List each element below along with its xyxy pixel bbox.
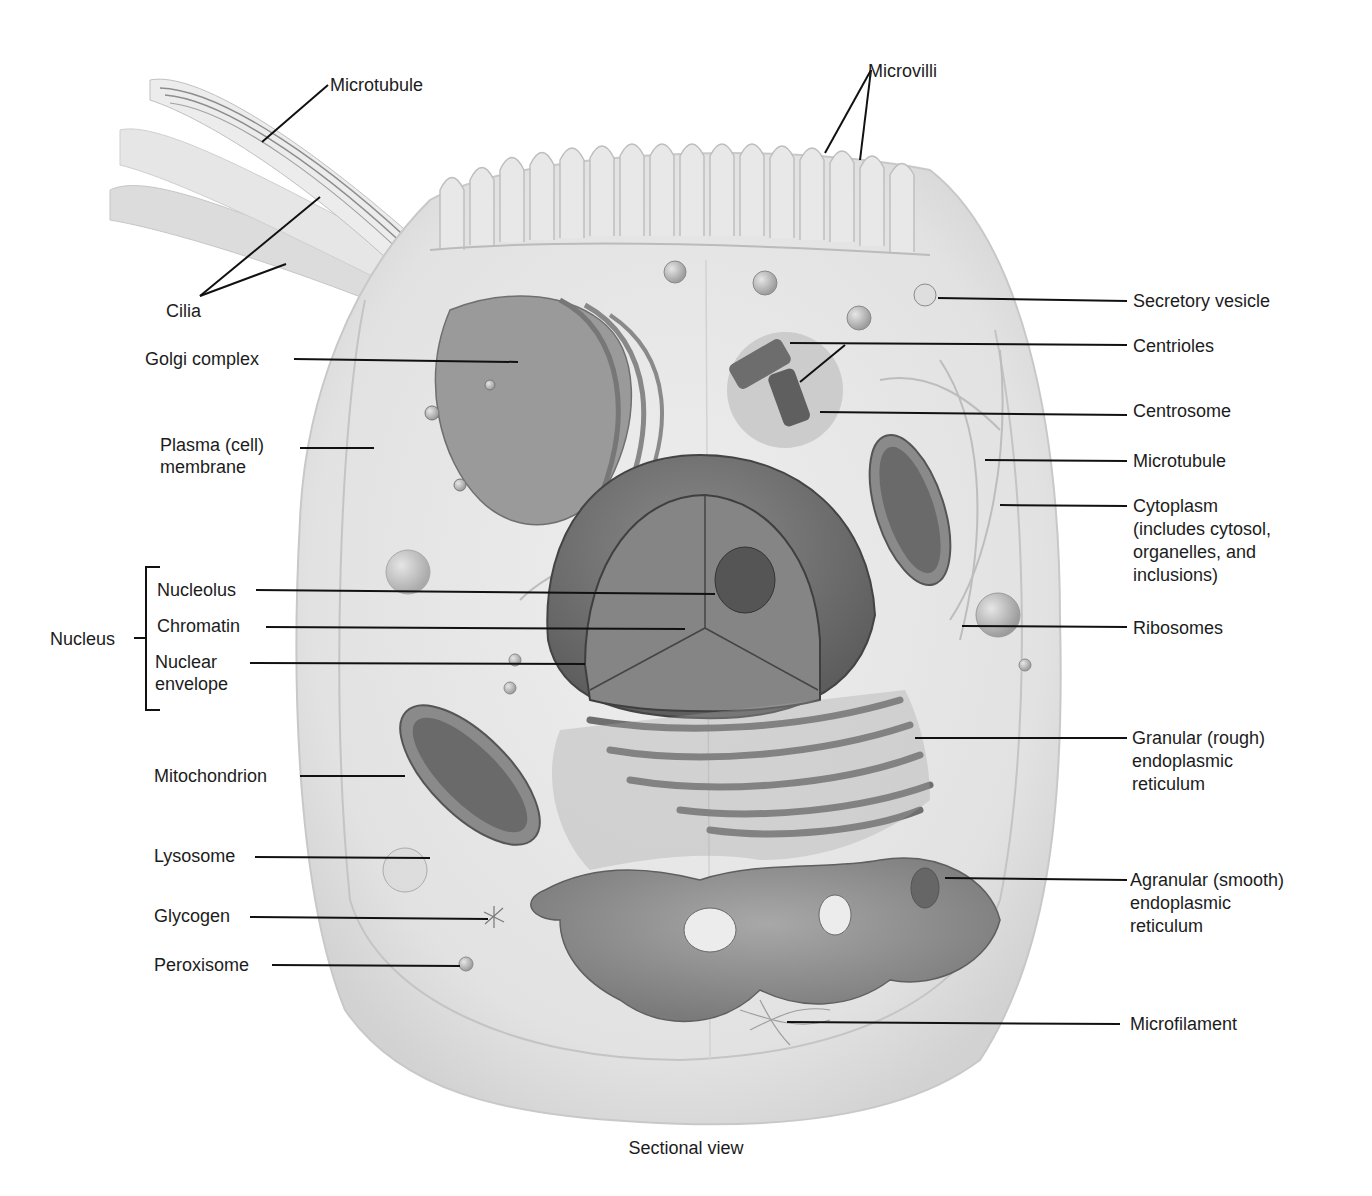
label-microfilament: Microfilament [1130,1013,1237,1035]
label-cytoplasm-line1: Cytoplasm [1133,495,1218,517]
label-cytoplasm-line2: (includes cytosol, [1133,518,1271,540]
label-smooth-er-line1: Agranular (smooth) [1130,869,1284,891]
label-nuclear-envelope-line2: envelope [155,673,228,695]
label-smooth-er-line2: endoplasmic [1130,892,1231,914]
label-nuclear-envelope-line1: Nuclear [155,651,217,673]
label-smooth-er-line3: reticulum [1130,915,1203,937]
nucleolus-illustration [715,547,775,613]
label-cytoplasm-line4: inclusions) [1133,564,1218,586]
label-nucleus: Nucleus [50,628,115,650]
label-peroxisome: Peroxisome [154,954,249,976]
label-centrioles: Centrioles [1133,335,1214,357]
label-microtubule-right: Microtubule [1133,450,1226,472]
label-plasma-membrane-line1: Plasma (cell) [160,434,264,456]
label-rough-er-line2: endoplasmic [1132,750,1233,772]
figure-caption: Sectional view [0,1138,1372,1159]
label-nucleolus: Nucleolus [157,579,236,601]
label-cytoplasm-line3: organelles, and [1133,541,1256,563]
label-microtubule-cilium: Microtubule [330,74,423,96]
label-centrosome: Centrosome [1133,400,1231,422]
cell-diagram: Microtubule Cilia Golgi complex Plasma (… [0,0,1372,1196]
label-ribosomes: Ribosomes [1133,617,1223,639]
label-chromatin: Chromatin [157,615,240,637]
label-lysosome: Lysosome [154,845,235,867]
label-rough-er-line3: reticulum [1132,773,1205,795]
label-glycogen: Glycogen [154,905,230,927]
label-golgi-complex: Golgi complex [145,348,259,370]
label-secretory-vesicle: Secretory vesicle [1133,290,1270,312]
label-microvilli: Microvilli [868,60,937,82]
label-cilia: Cilia [166,300,201,322]
label-mitochondrion: Mitochondrion [154,765,267,787]
label-rough-er-line1: Granular (rough) [1132,727,1265,749]
label-plasma-membrane-line2: membrane [160,456,246,478]
